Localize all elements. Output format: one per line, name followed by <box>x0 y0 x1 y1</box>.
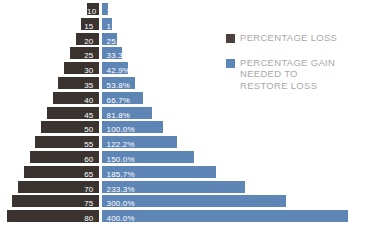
bar-label-gain: 122.2% <box>107 140 135 148</box>
legend-swatch-loss-icon <box>226 34 235 43</box>
bar-percentage-loss: 55 <box>35 136 98 148</box>
legend-swatch-gain-icon <box>226 59 235 68</box>
legend-item: PERCENTAGE LOSS <box>226 32 366 44</box>
bar-percentage-gain: 66.7% <box>102 92 143 104</box>
bar-label-loss: 15 <box>84 22 93 30</box>
bar-row: 65185.7% <box>0 166 370 178</box>
legend-item: PERCENTAGE GAINNEEDED TORESTORE LOSS <box>226 57 366 92</box>
bar-label-loss: 60 <box>84 155 93 163</box>
bar-percentage-gain: 100.0% <box>102 121 164 133</box>
bar-label-gain: 150.0% <box>107 155 135 163</box>
bar-label-loss: 65 <box>84 170 93 178</box>
bar-percentage-loss: 45 <box>47 107 99 119</box>
bar-label-gain: 66.7% <box>107 96 131 104</box>
legend-label-line: PERCENTAGE LOSS <box>240 32 366 44</box>
bar-label-loss: 70 <box>84 185 93 193</box>
bar-label-gain: 53.8% <box>107 81 131 89</box>
bar-row: 70233.3% <box>0 181 370 193</box>
bar-percentage-loss: 30 <box>64 62 99 74</box>
bar-row: 75300.0% <box>0 195 370 207</box>
bar-label-gain: 81.8% <box>107 111 131 119</box>
bar-percentage-gain: 233.3% <box>102 181 245 193</box>
bar-label-loss: 55 <box>84 140 93 148</box>
bar-percentage-loss: 60 <box>30 151 99 163</box>
bar-percentage-gain: 122.2% <box>102 136 177 148</box>
bar-percentage-loss: 35 <box>58 77 98 89</box>
bar-percentage-gain: 42.9% <box>102 62 128 74</box>
bar-percentage-loss: 40 <box>53 92 99 104</box>
bar-percentage-gain: 150.0% <box>102 151 194 163</box>
bar-label-loss: 10 <box>87 7 96 15</box>
bar-label-loss: 50 <box>84 125 93 133</box>
bar-label-loss: 40 <box>84 96 93 104</box>
percentage-loss-recovery-chart: 1011.1%1517.6%2025.0%2533.3%3042.9%3553.… <box>0 0 370 227</box>
bar-label-gain: 100.0% <box>107 125 135 133</box>
bar-label-loss: 45 <box>84 111 93 119</box>
bar-label-gain: 25.0% <box>107 37 117 45</box>
bar-label-loss: 80 <box>84 214 93 222</box>
bar-label-gain: 233.3% <box>107 185 135 193</box>
bar-percentage-gain: 11.1% <box>102 3 109 15</box>
bar-percentage-gain: 17.6% <box>102 18 113 30</box>
bar-row: 50100.0% <box>0 121 370 133</box>
legend-label-line: PERCENTAGE GAIN <box>240 57 366 69</box>
bar-label-gain: 400.0% <box>107 214 135 222</box>
bar-percentage-loss: 50 <box>41 121 99 133</box>
bar-label-gain: 42.9% <box>107 66 128 74</box>
bar-percentage-gain: 33.3% <box>102 47 122 59</box>
bar-percentage-gain: 25.0% <box>102 33 117 45</box>
bar-percentage-gain: 400.0% <box>102 210 348 222</box>
bar-label-gain: 33.3% <box>107 51 122 59</box>
bar-label-loss: 20 <box>84 37 93 45</box>
bar-row: 60150.0% <box>0 151 370 163</box>
bar-label-loss: 75 <box>84 199 93 207</box>
bar-percentage-gain: 81.8% <box>102 107 152 119</box>
bar-label-loss: 35 <box>84 81 93 89</box>
bar-percentage-loss: 65 <box>24 166 99 178</box>
bar-percentage-gain: 185.7% <box>102 166 216 178</box>
bar-percentage-loss: 75 <box>12 195 98 207</box>
legend-label-line: NEEDED TO <box>240 68 366 80</box>
chart-legend: PERCENTAGE LOSSPERCENTAGE GAINNEEDED TOR… <box>226 32 366 104</box>
bar-label-loss: 25 <box>84 51 93 59</box>
bar-percentage-gain: 300.0% <box>102 195 287 207</box>
legend-label-line: RESTORE LOSS <box>240 80 366 92</box>
bar-label-gain: 17.6% <box>107 22 113 30</box>
bar-percentage-loss: 20 <box>76 33 99 45</box>
bar-row: 1011.1% <box>0 3 370 15</box>
bar-label-gain: 300.0% <box>107 199 135 207</box>
bar-label-gain: 11.1% <box>107 7 109 15</box>
bar-percentage-loss: 25 <box>70 47 99 59</box>
bar-percentage-loss: 80 <box>7 210 99 222</box>
bar-percentage-loss: 15 <box>81 18 98 30</box>
bar-percentage-loss: 70 <box>18 181 99 193</box>
bar-label-gain: 185.7% <box>107 170 135 178</box>
bar-label-loss: 30 <box>84 66 93 74</box>
bar-row: 80400.0% <box>0 210 370 222</box>
bar-percentage-loss: 10 <box>87 3 99 15</box>
bar-row: 4581.8% <box>0 107 370 119</box>
bar-row: 55122.2% <box>0 136 370 148</box>
bar-row: 1517.6% <box>0 18 370 30</box>
bar-percentage-gain: 53.8% <box>102 77 135 89</box>
